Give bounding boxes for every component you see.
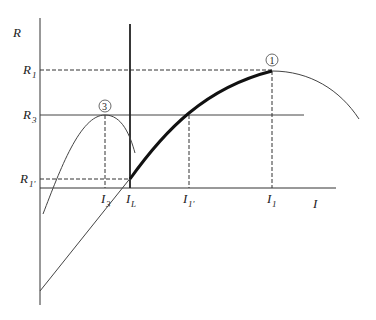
revenue-diagram: R I R 1 R 3 R 1' I 3 I L I 1' I 1 <box>0 0 376 320</box>
svg-text:R: R <box>19 171 28 186</box>
svg-text:1: 1 <box>270 55 275 66</box>
label-r1p: R 1' <box>19 171 37 189</box>
y-axis-label: R <box>12 25 21 40</box>
svg-text:1': 1' <box>29 179 37 189</box>
marker-point-1: 1 <box>266 54 278 66</box>
x-axis-label: I <box>312 196 318 211</box>
thick-curve <box>130 71 272 179</box>
label-i3: I 3 <box>100 191 111 209</box>
label-il: I L <box>125 191 136 209</box>
svg-text:1: 1 <box>32 70 37 80</box>
svg-text:1': 1' <box>188 199 196 209</box>
diagonal-line <box>40 176 132 291</box>
label-i1: I 1 <box>266 191 277 209</box>
svg-text:L: L <box>130 199 136 209</box>
label-i1p: I 1' <box>182 191 196 209</box>
svg-text:R: R <box>22 107 31 122</box>
marker-point-3: 3 <box>99 100 111 112</box>
svg-text:3: 3 <box>105 199 111 209</box>
curve-3 <box>43 115 135 214</box>
svg-text:R: R <box>22 62 31 77</box>
svg-text:3: 3 <box>31 115 37 125</box>
curve-1-tail <box>272 71 359 119</box>
svg-text:3: 3 <box>102 101 107 112</box>
label-r3: R 3 <box>22 107 37 125</box>
label-r1: R 1 <box>22 62 37 80</box>
svg-text:1: 1 <box>272 199 277 209</box>
